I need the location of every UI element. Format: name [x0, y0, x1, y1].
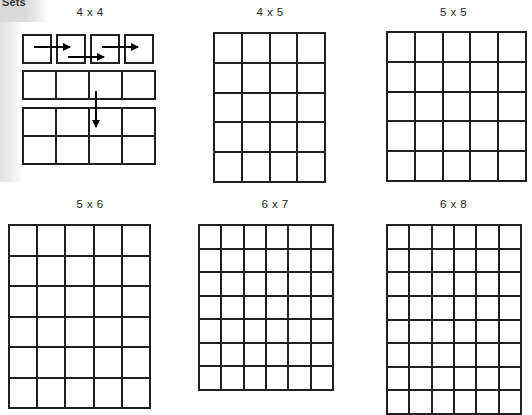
grid-cell: [499, 152, 527, 182]
grid-cell: [123, 226, 151, 257]
grid-cell: [433, 368, 455, 392]
grid-cell: [215, 153, 243, 183]
grid-cell: [267, 367, 289, 391]
grid-cell: [200, 344, 222, 368]
grid-cell: [416, 93, 444, 123]
grid-5x5: [386, 31, 527, 182]
grid-cell: [123, 379, 151, 410]
grid-cell: [388, 152, 416, 182]
grid-cell: [312, 273, 334, 297]
grid-6x8: [386, 224, 522, 415]
grid-cell: [388, 122, 416, 152]
grid-cell: [455, 321, 477, 345]
grid-cell: [500, 226, 522, 250]
grid-cell: [267, 320, 289, 344]
grid-cell: [222, 297, 244, 321]
grid-cell: [222, 250, 244, 274]
figure-6x7: 6 x 7: [190, 196, 360, 413]
grid-cell: [243, 34, 271, 64]
grid-cell: [66, 257, 94, 288]
grid-cell: [410, 297, 432, 321]
figure-title-5x5: 5 x 5: [375, 6, 532, 18]
grid-cell: [388, 33, 416, 63]
grid-cell: [477, 250, 499, 274]
grid-cell: [312, 320, 334, 344]
grid-cell: [500, 321, 522, 345]
grid-cell: [215, 94, 243, 124]
grid-cell: [312, 367, 334, 391]
grid-cell: [410, 321, 432, 345]
grid-cell: [243, 123, 271, 153]
grid-cell: [24, 109, 57, 137]
grid-cell: [388, 391, 410, 415]
grid-cell: [200, 320, 222, 344]
grid-cell: [444, 93, 472, 123]
grid-cell: [123, 137, 156, 165]
grid-cell: [477, 321, 499, 345]
figure-5x6: 5 x 6: [0, 196, 180, 413]
grid-cell: [312, 250, 334, 274]
grid-cell: [243, 64, 271, 94]
grid-cell: [298, 123, 326, 153]
grid-4x5: [213, 32, 326, 183]
grid-cell: [222, 367, 244, 391]
arrow-down-1-icon: [91, 91, 100, 127]
grid-6x7: [198, 224, 334, 391]
grid-cell: [123, 287, 151, 318]
grid-cell: [90, 137, 123, 165]
grid-cell: [410, 226, 432, 250]
grid-cell: [455, 344, 477, 368]
grid-cell: [444, 122, 472, 152]
grid-cell: [10, 257, 38, 288]
grid-cell: [455, 391, 477, 415]
grid-cell: [455, 250, 477, 274]
figure-4x5: 4 x 5: [195, 4, 345, 194]
arrow-right-2-icon: [68, 52, 104, 61]
grid-cell: [245, 367, 267, 391]
grid-cell: [500, 344, 522, 368]
grid-cell: [388, 93, 416, 123]
figure-title-5x6: 5 x 6: [0, 198, 180, 210]
grid-cell: [410, 250, 432, 274]
grid-cell: [95, 257, 123, 288]
figure-title-6x7: 6 x 7: [190, 198, 360, 210]
grid-cell: [200, 297, 222, 321]
grid-cell: [388, 250, 410, 274]
grid-cell: [245, 250, 267, 274]
grid-cell: [433, 250, 455, 274]
grid-cell: [95, 379, 123, 410]
grid-cell: [433, 344, 455, 368]
grid-cell: [222, 226, 244, 250]
grid-cell: [215, 64, 243, 94]
grid-cell: [388, 297, 410, 321]
grid-cell: [243, 94, 271, 124]
grid-cell: [38, 287, 66, 318]
grid-cell: [245, 344, 267, 368]
grid-cell: [95, 287, 123, 318]
grid-cell: [471, 63, 499, 93]
grid-cell: [410, 344, 432, 368]
grid-cell: [416, 33, 444, 63]
grid-cell: [271, 64, 299, 94]
grid-cell: [388, 368, 410, 392]
grid-cell: [298, 64, 326, 94]
grid-cell: [123, 257, 151, 288]
grid-cell: [500, 297, 522, 321]
grid-cell: [245, 273, 267, 297]
grid-cell: [215, 34, 243, 64]
grid-cell: [95, 348, 123, 379]
grid-cell: [289, 367, 311, 391]
grid-cell: [123, 318, 151, 349]
grid-cell: [66, 226, 94, 257]
grid-cell: [10, 348, 38, 379]
grid-cell: [243, 153, 271, 183]
grid-cell: [289, 297, 311, 321]
grid-cell: [200, 226, 222, 250]
grid-cell: [471, 152, 499, 182]
grid-cell: [66, 348, 94, 379]
grid-cell: [455, 226, 477, 250]
figure-title-6x8: 6 x 8: [375, 198, 532, 210]
grid-cell: [289, 344, 311, 368]
grid-cell: [10, 226, 38, 257]
grid-cell: [499, 122, 527, 152]
